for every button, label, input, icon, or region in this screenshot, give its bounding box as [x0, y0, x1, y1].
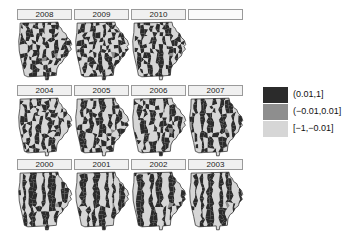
georgia-choropleth-map[interactable]	[74, 97, 131, 157]
panel-grid: 2008 2009 2010 2004 2005	[17, 9, 245, 237]
panel-strip-label: 2001	[74, 159, 129, 170]
georgia-choropleth-map[interactable]	[74, 21, 131, 81]
panel-strip-label: 2000	[17, 159, 72, 170]
panel-cell[interactable]: 2009	[74, 9, 131, 81]
panel-cell[interactable]: 2010	[131, 9, 188, 81]
panel-strip-label: 2007	[188, 85, 243, 96]
panel-row: 2004 2005 2006 2007	[17, 85, 245, 157]
panel-cell[interactable]: 2000	[17, 159, 74, 231]
legend-swatch	[263, 87, 288, 103]
legend-label: (−0.01,0.01]	[293, 107, 341, 116]
panel-cell-empty	[188, 9, 245, 81]
panel-cell[interactable]: 2002	[131, 159, 188, 231]
panel-strip-label: 2006	[131, 85, 186, 96]
georgia-choropleth-map[interactable]	[17, 171, 74, 231]
panel-cell[interactable]: 2007	[188, 85, 245, 157]
panel-strip-label: 2008	[17, 9, 72, 20]
legend: (0.01,1] (−0.01,0.01] [−1,−0.01]	[263, 86, 355, 144]
panel-cell[interactable]: 2004	[17, 85, 74, 157]
legend-entry: [−1,−0.01]	[263, 120, 355, 137]
legend-label: (0.01,1]	[293, 90, 324, 99]
panel-strip-label-empty	[188, 9, 243, 20]
legend-swatch	[263, 104, 288, 120]
panel-row: 2008 2009 2010	[17, 9, 245, 81]
legend-label: [−1,−0.01]	[293, 124, 334, 133]
panel-cell[interactable]: 2001	[74, 159, 131, 231]
panel-cell[interactable]: 2008	[17, 9, 74, 81]
legend-swatch	[263, 121, 288, 137]
georgia-choropleth-map[interactable]	[131, 171, 188, 231]
georgia-choropleth-map[interactable]	[17, 97, 74, 157]
legend-entry: (0.01,1]	[263, 86, 355, 103]
panel-strip-label: 2003	[188, 159, 243, 170]
georgia-choropleth-map[interactable]	[74, 171, 131, 231]
panel-strip-label: 2004	[17, 85, 72, 96]
panel-cell[interactable]: 2005	[74, 85, 131, 157]
panel-strip-label: 2002	[131, 159, 186, 170]
georgia-choropleth-map[interactable]	[188, 171, 245, 231]
panel-strip-label: 2009	[74, 9, 129, 20]
panel-cell[interactable]: 2003	[188, 159, 245, 231]
trellis-choropleth-figure: 2008 2009 2010 2004 2005	[0, 0, 359, 245]
legend-entry: (−0.01,0.01]	[263, 103, 355, 120]
panel-cell[interactable]: 2006	[131, 85, 188, 157]
georgia-choropleth-map[interactable]	[17, 21, 74, 81]
georgia-choropleth-map[interactable]	[131, 21, 188, 81]
panel-strip-label: 2010	[131, 9, 186, 20]
georgia-choropleth-map[interactable]	[131, 97, 188, 157]
panel-strip-label: 2005	[74, 85, 129, 96]
panel-row: 2000 2001 2002 2003	[17, 159, 245, 231]
georgia-choropleth-map[interactable]	[188, 97, 245, 157]
